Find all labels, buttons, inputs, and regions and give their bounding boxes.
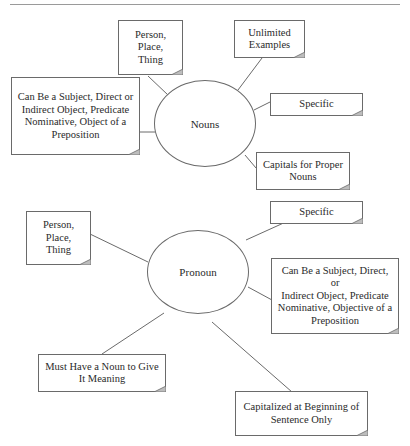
nouns-note-grammatical-roles: Can Be a Subject, Direct or Indirect Obj… xyxy=(11,77,140,155)
nouns-ellipse: Nouns xyxy=(154,80,256,167)
pronoun-note-capitalized: Capitalized at Beginning of Sentence Onl… xyxy=(235,391,368,436)
page-curl-icon xyxy=(338,184,350,190)
pronoun-note-specific: Specific xyxy=(270,201,363,224)
nouns-note-specific: Specific xyxy=(270,93,363,116)
nouns-note-unlimited-examples: Unlimited Examples xyxy=(234,20,305,58)
page-curl-icon xyxy=(387,328,399,334)
page-curl-icon xyxy=(128,149,140,155)
page-curl-icon xyxy=(79,259,91,265)
page-curl-icon xyxy=(356,430,368,436)
pronoun-label: Pronoun xyxy=(179,266,216,278)
nouns-note-person-place-thing: Person, Place, Thing xyxy=(118,20,183,75)
pronoun-note-grammatical-roles: Can Be a Subject, Direct, or Indirect Ob… xyxy=(271,258,399,334)
pronoun-note-needs-noun: Must Have a Noun to Give It Meaning xyxy=(38,354,166,392)
pronoun-ellipse: Pronoun xyxy=(147,230,249,314)
page-curl-icon xyxy=(154,386,166,392)
pronoun-note-person-place-thing: Person, Place, Thing xyxy=(26,211,91,265)
nouns-note-capitals: Capitals for Proper Nouns xyxy=(256,152,350,190)
nouns-label: Nouns xyxy=(191,118,220,130)
page-curl-icon xyxy=(293,52,305,58)
page-curl-icon xyxy=(351,110,363,116)
page-curl-icon xyxy=(351,218,363,224)
page-curl-icon xyxy=(171,69,183,75)
